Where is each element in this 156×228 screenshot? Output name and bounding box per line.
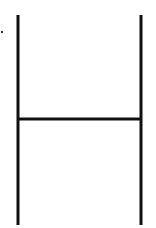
dot-marker (1, 31, 3, 33)
diagram-canvas (0, 0, 156, 228)
h-shape-figure (0, 0, 156, 228)
